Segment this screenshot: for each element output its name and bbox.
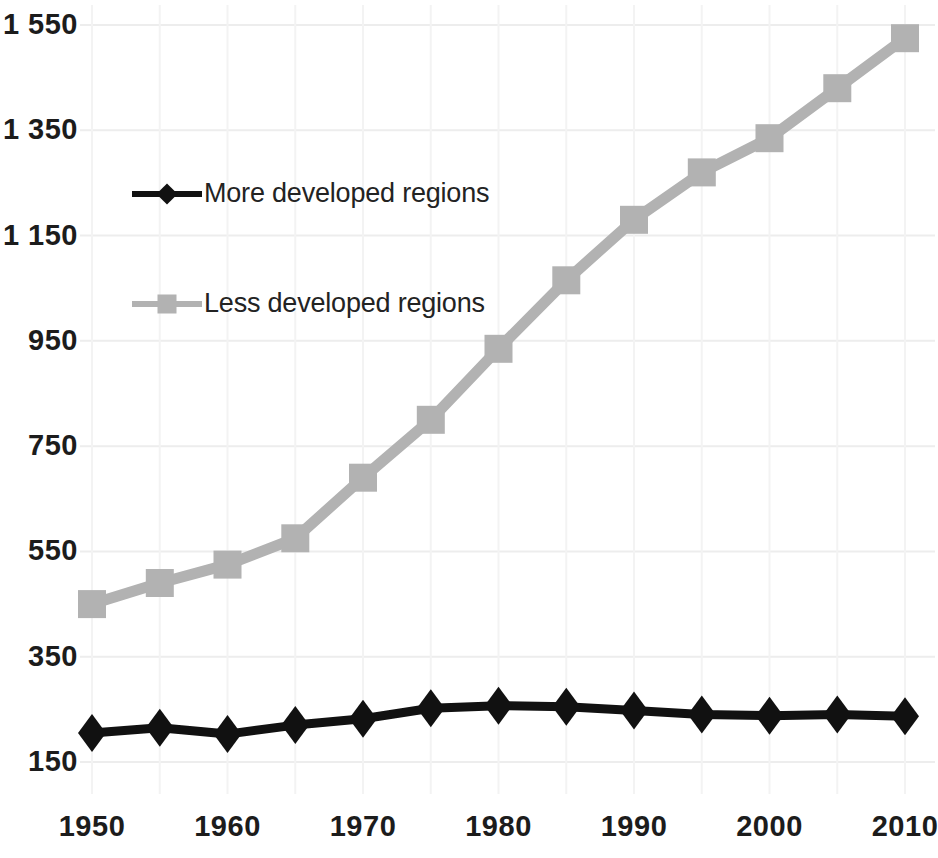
y-axis-tick-labels: 1503505507509501 1501 3501 550 [0,0,78,858]
legend-item-less-developed-regions: Less developed regions [132,288,485,319]
legend-swatch-more-developed-regions [132,181,202,207]
y-axis-tick-label: 1 350 [3,115,78,144]
data-point-square-marker [485,335,513,363]
y-axis-tick-label: 950 [28,326,78,355]
y-axis-tick-label: 750 [28,431,78,460]
data-point-diamond-marker [78,714,106,752]
data-point-diamond-marker [891,697,919,735]
data-point-square-marker [417,406,445,434]
x-axis-tick-label: 1970 [330,812,397,841]
data-point-diamond-marker [756,697,784,735]
y-axis-tick-label: 350 [28,642,78,671]
data-point-diamond-marker [214,715,242,753]
data-point-square-marker [823,74,851,102]
data-point-square-marker [78,590,106,618]
y-axis-tick-label: 150 [28,747,78,776]
data-point-diamond-marker [823,696,851,734]
legend-label-more-developed-regions: More developed regions [204,178,489,209]
legend-item-more-developed-regions: More developed regions [132,178,489,209]
x-axis-tick-label: 2000 [736,812,803,841]
data-point-diamond-marker [485,687,513,725]
data-point-diamond-marker [349,700,377,738]
legend-swatch-less-developed-regions [132,291,202,317]
y-axis-tick-label: 1 550 [3,10,78,39]
legend-label-less-developed-regions: Less developed regions [204,288,485,319]
data-point-square-marker [891,24,919,52]
x-axis-tick-label: 1990 [601,812,668,841]
y-axis-tick-label: 550 [28,536,78,565]
data-point-square-marker [349,464,377,492]
data-point-square-marker [146,569,174,597]
diamond-marker-icon [156,183,177,204]
x-axis-tick-label: 1960 [194,812,261,841]
data-point-diamond-marker [552,688,580,726]
y-axis-tick-label: 1 150 [3,221,78,250]
data-point-diamond-marker [146,709,174,747]
square-marker-icon [158,294,177,313]
data-point-square-marker [688,158,716,186]
data-point-diamond-marker [688,696,716,734]
data-point-diamond-marker [281,706,309,744]
data-point-square-marker [552,266,580,294]
horizontal-gridlines [80,25,935,762]
data-point-square-marker [756,124,784,152]
data-point-square-marker [281,524,309,552]
data-point-diamond-marker [417,689,445,727]
x-axis-tick-label: 1950 [59,812,126,841]
data-point-square-marker [214,551,242,579]
data-point-square-marker [620,206,648,234]
x-axis-tick-label: 1980 [465,812,532,841]
data-point-diamond-marker [620,691,648,729]
x-axis-tick-label: 2010 [872,812,938,841]
